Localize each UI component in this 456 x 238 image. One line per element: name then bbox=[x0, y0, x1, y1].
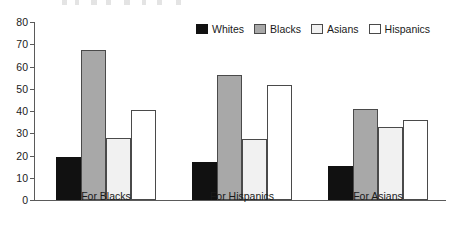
category-label: For Hispanics bbox=[192, 190, 292, 202]
scan-bleed-artifact bbox=[58, 0, 208, 5]
bar-group-for-asians bbox=[328, 22, 428, 200]
y-tick-mark bbox=[30, 133, 34, 134]
y-tick-label: 50 bbox=[16, 83, 28, 95]
bar-hispanics-for-asians bbox=[403, 120, 428, 200]
bar-blacks-for-hispanics bbox=[217, 75, 242, 200]
y-tick-label: 30 bbox=[16, 127, 28, 139]
bar-chart-figure: WhitesBlacksAsiansHispanics 010203040506… bbox=[0, 0, 456, 238]
y-axis-line bbox=[34, 22, 35, 200]
bar-hispanics-for-hispanics bbox=[267, 85, 292, 200]
y-tick-mark bbox=[30, 22, 34, 23]
y-tick-label: 0 bbox=[22, 194, 28, 206]
y-tick-mark bbox=[30, 156, 34, 157]
y-tick-label: 10 bbox=[16, 172, 28, 184]
y-tick-label: 70 bbox=[16, 38, 28, 50]
y-tick-mark bbox=[30, 89, 34, 90]
y-tick-mark bbox=[30, 111, 34, 112]
bar-group-for-hispanics bbox=[192, 22, 292, 200]
bar-asians-for-asians bbox=[378, 127, 403, 200]
bar-blacks-for-asians bbox=[353, 109, 378, 200]
bar-group-for-blacks bbox=[56, 22, 156, 200]
y-tick-mark bbox=[30, 178, 34, 179]
y-tick-mark bbox=[30, 44, 34, 45]
y-tick-mark bbox=[30, 200, 34, 201]
plot-area: 01020304050607080 bbox=[34, 22, 446, 200]
bar-blacks-for-blacks bbox=[81, 50, 106, 200]
y-tick-label: 80 bbox=[16, 16, 28, 28]
y-tick-label: 60 bbox=[16, 61, 28, 73]
bar-hispanics-for-blacks bbox=[131, 110, 156, 200]
y-tick-label: 20 bbox=[16, 150, 28, 162]
y-tick-label: 40 bbox=[16, 105, 28, 117]
category-label: For Asians bbox=[328, 190, 428, 202]
y-tick-mark bbox=[30, 67, 34, 68]
category-label: For Blacks bbox=[56, 190, 156, 202]
